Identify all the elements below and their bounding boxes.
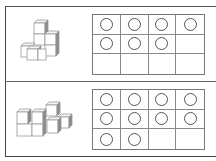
counter-circle-icon: [128, 93, 141, 106]
ten-frame-cell: [149, 15, 177, 35]
cube-stack-figure-2: [14, 98, 80, 146]
ten-frame-cell: [121, 129, 149, 149]
cube-stack-figure-1: [18, 18, 70, 66]
counter-circle-icon: [100, 18, 113, 31]
counter-circle-icon: [155, 112, 168, 125]
counter-circle-icon: [100, 93, 113, 106]
ten-frame-cell: [176, 35, 204, 55]
counter-circle-icon: [128, 18, 141, 31]
counter-circle-icon: [100, 133, 113, 146]
counter-circle-icon: [100, 112, 113, 125]
ten-frame-cell: [176, 54, 204, 74]
ten-frame-cell: [149, 35, 177, 55]
ten-frame-cell: [93, 110, 121, 130]
counter-circle-icon: [155, 37, 168, 50]
ten-frame-cell: [93, 54, 121, 74]
counter-circle-icon: [184, 18, 197, 31]
ten-frame-1: [92, 14, 205, 75]
ten-frame-cell: [121, 90, 149, 110]
ten-frame-cell: [121, 110, 149, 130]
ten-frame-cell: [121, 54, 149, 74]
ten-frame-cell: [176, 90, 204, 110]
counter-circle-icon: [128, 37, 141, 50]
ten-frame-cell: [149, 54, 177, 74]
counter-circle-icon: [128, 112, 141, 125]
ten-frame-cell: [93, 90, 121, 110]
ten-frame-cell: [93, 129, 121, 149]
counter-circle-icon: [184, 112, 197, 125]
ten-frame-cell: [121, 35, 149, 55]
ten-frame-cell: [93, 35, 121, 55]
counter-circle-icon: [128, 133, 141, 146]
ten-frame-cell: [176, 15, 204, 35]
ten-frame-cell: [149, 129, 177, 149]
counter-circle-icon: [184, 93, 197, 106]
ten-frame-cell: [149, 110, 177, 130]
ten-frame-cell: [176, 110, 204, 130]
counter-circle-icon: [100, 37, 113, 50]
ten-frame-2: [92, 89, 205, 150]
row-divider: [5, 81, 216, 82]
ten-frame-cell: [176, 129, 204, 149]
ten-frame-cell: [149, 90, 177, 110]
ten-frame-cell: [93, 15, 121, 35]
counter-circle-icon: [155, 93, 168, 106]
ten-frame-cell: [121, 15, 149, 35]
counter-circle-icon: [155, 18, 168, 31]
